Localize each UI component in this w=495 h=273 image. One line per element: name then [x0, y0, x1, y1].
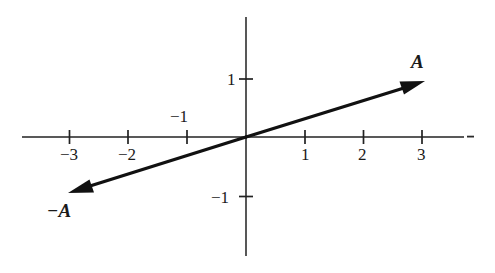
y-tick-label-1: 1: [227, 71, 236, 88]
x-tick-label-minus3: −3: [60, 146, 78, 163]
x-tick-label-minus1: −1: [170, 108, 188, 125]
x-tick-label-2: 2: [358, 146, 367, 163]
y-tick-label-minus1: −1: [211, 189, 229, 206]
x-tick-label-3: 3: [417, 146, 426, 163]
vector-neg-a-label: −A: [47, 201, 71, 220]
vector-a-label: A: [411, 52, 424, 71]
vector-neg-a-arrowhead: [68, 180, 94, 194]
vector-a-shaft: [246, 86, 412, 138]
x-tick-label-1: 1: [301, 146, 310, 163]
vector-neg-a-shaft: [82, 137, 246, 189]
x-tick-label-minus2: −2: [118, 146, 136, 163]
vector-diagram-figure: −3 −2 −1 1 2 3 1 −1 A −A: [0, 0, 495, 273]
coordinate-plot-svg: [0, 0, 495, 273]
vector-a-arrowhead: [400, 81, 426, 95]
